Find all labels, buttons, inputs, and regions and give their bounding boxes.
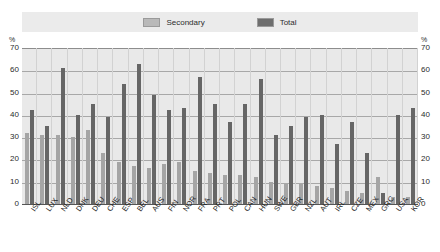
bar-total-gbr[interactable] (289, 126, 293, 204)
x-label-cell: LUX (37, 206, 52, 252)
x-label-cell: NLD (52, 206, 67, 252)
category-separator (417, 48, 418, 204)
y-tick-left-70: 70 (4, 44, 19, 52)
x-label-cell: NZL (296, 206, 311, 252)
x-label-cell: IRL (327, 206, 342, 252)
legend-label-secondary: Secondary (166, 18, 204, 27)
bar-secondary-isl[interactable] (25, 133, 29, 204)
bar-secondary-lux[interactable] (40, 135, 44, 204)
bar-group-prt (205, 48, 220, 204)
bar-total-che[interactable] (106, 117, 110, 204)
x-label-cell: HUN (251, 206, 266, 252)
bar-group-che (98, 48, 113, 204)
y-tick-right-60: 60 (421, 66, 436, 74)
x-label-cell: SWE (266, 206, 281, 252)
legend-item-secondary[interactable]: Secondary (143, 18, 204, 27)
bar-total-dnk[interactable] (76, 115, 80, 204)
x-label-cell: CAN (235, 206, 250, 252)
bar-group-fin (159, 48, 174, 204)
bar-group-isl (22, 48, 37, 204)
x-label-cell: KOR (403, 206, 418, 252)
bar-group-mex (357, 48, 372, 204)
legend-item-total[interactable]: Total (257, 18, 297, 27)
x-label-cell: ESP (113, 206, 128, 252)
x-label-cell: PRT (205, 206, 220, 252)
bar-total-aut[interactable] (320, 115, 324, 204)
bar-total-aus[interactable] (152, 95, 156, 204)
x-label-cell: POL (220, 206, 235, 252)
bar-group-nld (52, 48, 67, 204)
y-tick-right-30: 30 (421, 133, 436, 141)
y-tick-right-70: 70 (421, 44, 436, 52)
bar-group-aus (144, 48, 159, 204)
bar-total-irl[interactable] (335, 144, 339, 204)
bar-group-can (235, 48, 250, 204)
y-tick-right-50: 50 (421, 89, 436, 97)
bar-group-dnk (68, 48, 83, 204)
x-label-cell: FIN (159, 206, 174, 252)
x-label-cell: DEU (83, 206, 98, 252)
x-label-cell: USA (388, 206, 403, 252)
x-label-cell: NOR (174, 206, 189, 252)
bar-total-bel[interactable] (137, 64, 141, 204)
x-axis-labels: ISLLUXNLDDNKDEUCHEESPBELAUSFINNORFRAPRTP… (22, 206, 418, 252)
bar-total-fra[interactable] (198, 77, 202, 204)
x-label-cell: CZE (342, 206, 357, 252)
legend-label-total: Total (280, 18, 297, 27)
y-axis-unit-left: % (9, 36, 15, 43)
y-tick-left-0: 0 (4, 200, 19, 208)
x-label-cell: BEL (129, 206, 144, 252)
bar-group-gbr (281, 48, 296, 204)
bar-group-fra (190, 48, 205, 204)
y-tick-left-60: 60 (4, 66, 19, 74)
bar-total-mex[interactable] (365, 153, 369, 204)
x-label-cell: MEX (357, 206, 372, 252)
bar-total-cze[interactable] (350, 122, 354, 204)
bar-group-lux (37, 48, 52, 204)
x-label-cell: ISL (22, 206, 37, 252)
bar-group-kor (403, 48, 418, 204)
bar-total-esp[interactable] (122, 84, 126, 204)
bar-secondary-nor[interactable] (177, 162, 181, 204)
bar-group-deu (83, 48, 98, 204)
bar-group-nzl (296, 48, 311, 204)
bar-secondary-deu[interactable] (86, 130, 90, 204)
bar-group-pol (220, 48, 235, 204)
bar-total-usa[interactable] (396, 115, 400, 204)
bar-secondary-nld[interactable] (56, 135, 60, 204)
bar-total-lux[interactable] (45, 126, 49, 204)
x-label-cell: DNK (68, 206, 83, 252)
y-tick-right-10: 10 (421, 178, 436, 186)
bar-total-swe[interactable] (274, 135, 278, 204)
bar-total-hun[interactable] (259, 79, 263, 204)
bar-group-cze (342, 48, 357, 204)
bar-total-kor[interactable] (411, 108, 415, 204)
y-tick-right-20: 20 (421, 155, 436, 163)
bar-total-prt[interactable] (213, 104, 217, 204)
bar-total-nzl[interactable] (304, 117, 308, 204)
y-tick-left-50: 50 (4, 89, 19, 97)
bar-group-grc (372, 48, 387, 204)
bar-total-isl[interactable] (30, 110, 34, 204)
bar-group-irl (327, 48, 342, 204)
bar-group-nor (174, 48, 189, 204)
legend-swatch-icon-secondary (143, 18, 160, 27)
bar-group-hun (251, 48, 266, 204)
x-label-cell: FRA (190, 206, 205, 252)
bar-total-fin[interactable] (167, 110, 171, 204)
bar-group-swe (266, 48, 281, 204)
bar-secondary-dnk[interactable] (71, 137, 75, 204)
y-tick-left-20: 20 (4, 155, 19, 163)
bar-series-container (22, 48, 418, 204)
x-label-cell: GRC (372, 206, 387, 252)
bar-total-pol[interactable] (228, 122, 232, 204)
bar-total-nld[interactable] (61, 68, 65, 204)
bar-group-usa (388, 48, 403, 204)
y-axis-unit-right: % (421, 36, 427, 43)
bar-total-can[interactable] (243, 104, 247, 204)
bar-total-deu[interactable] (91, 104, 95, 204)
bar-total-nor[interactable] (182, 108, 186, 204)
x-label-cell: AUT (311, 206, 326, 252)
y-tick-left-30: 30 (4, 133, 19, 141)
x-label-cell: CHE (98, 206, 113, 252)
